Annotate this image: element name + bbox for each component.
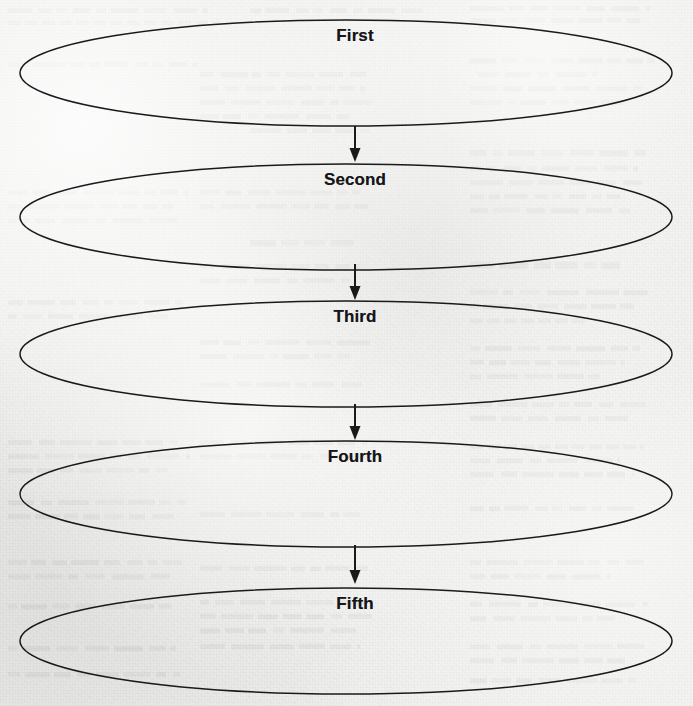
arrow-head	[350, 148, 361, 162]
flowchart-arrow[interactable]	[350, 545, 361, 584]
flowchart-node-label: First	[336, 26, 373, 46]
flowchart-node-label: Second	[324, 170, 386, 190]
arrow-head	[350, 426, 361, 440]
flowchart-arrow[interactable]	[350, 126, 361, 162]
arrow-head	[350, 570, 361, 584]
arrow-head	[350, 286, 361, 300]
flowchart-node-label: Third	[334, 307, 377, 327]
flowchart-arrow[interactable]	[350, 404, 361, 440]
flowchart-canvas: FirstSecondThirdFourthFifth	[0, 0, 693, 706]
flowchart-node-label: Fourth	[328, 447, 382, 467]
flowchart-node-label: Fifth	[336, 594, 373, 614]
